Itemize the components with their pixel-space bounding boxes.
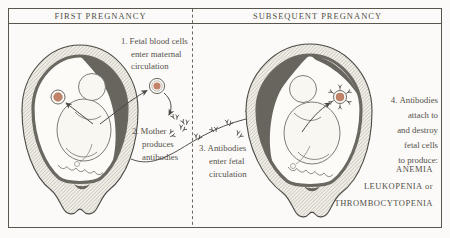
outcome-anemia: ANEMIA bbox=[334, 161, 433, 178]
step-3-label: 3.Antibodies enter fetal circulation bbox=[199, 142, 247, 181]
step-4-number: 4. bbox=[391, 95, 398, 105]
step-1-number: 1. bbox=[121, 36, 128, 46]
antibody-icon bbox=[170, 113, 179, 121]
outcome-list: ANEMIA LEUKOPENIA or THROMBOCYTOPENIA bbox=[334, 161, 433, 212]
red-blood-cell-icon bbox=[149, 78, 164, 93]
antibody-icon bbox=[178, 124, 188, 133]
step-1-label: 1.Fetal blood cells enter maternal circu… bbox=[121, 35, 188, 73]
outcome-thrombocytopenia: THROMBOCYTOPENIA bbox=[334, 195, 433, 212]
step-4-label: 4.Antibodies attach to and destroy fetal… bbox=[391, 93, 438, 168]
step-2-number: 2. bbox=[132, 126, 139, 136]
antibody-trail bbox=[181, 108, 255, 142]
step-3-number: 3. bbox=[199, 143, 206, 153]
arrow-cell-to-antibodies bbox=[164, 93, 171, 115]
outcome-leukopenia: LEUKOPENIA or bbox=[334, 178, 433, 195]
step-2-label: 2.Mother produces antibodies bbox=[132, 125, 178, 164]
panel-header-first-pregnancy: FIRST PREGNANCY bbox=[9, 9, 192, 23]
red-blood-cell-icon bbox=[51, 90, 65, 104]
antibody-icon bbox=[234, 130, 244, 140]
panel-header-subsequent-pregnancy: SUBSEQUENT PREGNANCY bbox=[193, 9, 442, 23]
antibody-icon bbox=[181, 119, 190, 126]
